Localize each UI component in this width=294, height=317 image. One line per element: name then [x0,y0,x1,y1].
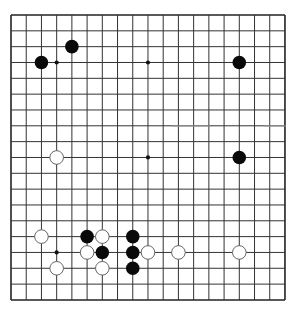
intersection[interactable] [50,8,64,22]
intersection[interactable] [202,55,216,69]
intersection[interactable] [111,198,125,212]
intersection[interactable] [126,24,140,38]
intersection[interactable] [111,245,125,259]
intersection[interactable] [126,87,140,101]
intersection[interactable] [156,182,170,196]
intersection[interactable] [187,198,201,212]
intersection[interactable] [4,103,18,117]
intersection[interactable] [202,71,216,85]
intersection[interactable] [156,119,170,133]
intersection[interactable] [278,135,292,149]
intersection[interactable] [232,40,246,54]
intersection[interactable] [187,8,201,22]
intersection[interactable] [34,8,48,22]
intersection[interactable] [248,166,262,180]
intersection[interactable] [4,166,18,180]
intersection[interactable] [141,71,155,85]
intersection[interactable] [202,214,216,228]
intersection[interactable] [34,198,48,212]
intersection[interactable] [187,103,201,117]
intersection[interactable] [4,119,18,133]
intersection[interactable] [126,71,140,85]
intersection[interactable] [187,277,201,291]
intersection[interactable] [126,55,140,69]
intersection[interactable] [217,24,231,38]
intersection[interactable] [19,214,33,228]
intersection[interactable] [248,24,262,38]
intersection[interactable] [4,245,18,259]
intersection[interactable] [111,230,125,244]
intersection[interactable] [34,103,48,117]
intersection[interactable] [156,135,170,149]
intersection[interactable] [141,40,155,54]
intersection[interactable] [126,277,140,291]
intersection[interactable] [187,40,201,54]
intersection[interactable] [126,40,140,54]
intersection[interactable] [217,198,231,212]
intersection[interactable] [278,214,292,228]
intersection[interactable] [217,182,231,196]
intersection[interactable] [202,261,216,275]
intersection[interactable] [80,55,94,69]
intersection[interactable] [171,261,185,275]
intersection[interactable] [217,150,231,164]
intersection[interactable] [171,103,185,117]
intersection[interactable] [80,198,94,212]
intersection[interactable] [263,71,277,85]
intersection[interactable] [4,71,18,85]
intersection[interactable] [80,8,94,22]
intersection[interactable] [141,230,155,244]
intersection[interactable] [263,182,277,196]
intersection[interactable] [4,182,18,196]
intersection[interactable] [202,87,216,101]
black-stone[interactable] [35,56,49,70]
intersection[interactable] [278,166,292,180]
intersection[interactable] [111,277,125,291]
intersection[interactable] [65,8,79,22]
intersection[interactable] [232,71,246,85]
intersection[interactable] [263,87,277,101]
intersection[interactable] [126,198,140,212]
white-stone[interactable] [96,261,110,275]
intersection[interactable] [65,166,79,180]
intersection[interactable] [232,277,246,291]
intersection[interactable] [65,24,79,38]
intersection[interactable] [232,230,246,244]
intersection[interactable] [202,40,216,54]
intersection[interactable] [19,277,33,291]
intersection[interactable] [80,277,94,291]
intersection[interactable] [141,293,155,307]
intersection[interactable] [141,166,155,180]
white-stone[interactable] [141,246,155,260]
intersection[interactable] [248,293,262,307]
intersection[interactable] [65,245,79,259]
intersection[interactable] [4,87,18,101]
intersection[interactable] [232,87,246,101]
intersection[interactable] [156,230,170,244]
intersection[interactable] [50,198,64,212]
intersection[interactable] [187,182,201,196]
intersection[interactable] [50,230,64,244]
intersection[interactable] [111,150,125,164]
intersection[interactable] [217,230,231,244]
intersection[interactable] [111,87,125,101]
intersection[interactable] [248,55,262,69]
intersection[interactable] [187,55,201,69]
intersection[interactable] [217,166,231,180]
intersection[interactable] [65,71,79,85]
intersection[interactable] [50,103,64,117]
intersection[interactable] [95,87,109,101]
intersection[interactable] [65,135,79,149]
intersection[interactable] [171,8,185,22]
intersection[interactable] [217,277,231,291]
white-stone[interactable] [80,246,94,260]
white-stone[interactable] [233,246,247,260]
intersection[interactable] [95,277,109,291]
intersection[interactable] [34,293,48,307]
intersection[interactable] [34,71,48,85]
intersection[interactable] [126,293,140,307]
intersection[interactable] [248,8,262,22]
intersection[interactable] [156,8,170,22]
intersection[interactable] [19,135,33,149]
intersection[interactable] [34,214,48,228]
